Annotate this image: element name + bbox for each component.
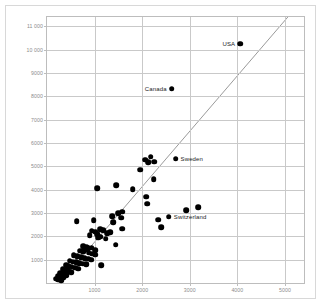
- data-point[interactable]: [142, 157, 148, 163]
- x-axis-tick-label: 5000: [279, 287, 291, 293]
- y-axis-tick-label: 3000: [31, 210, 43, 216]
- y-axis-tick-label: 11 000: [27, 23, 43, 29]
- gridline-vertical: [237, 17, 238, 283]
- y-axis-tick-label: 1000: [31, 257, 43, 263]
- data-point-label-switzerland: Switzerland: [174, 214, 207, 220]
- data-point[interactable]: [156, 217, 162, 223]
- data-point-label-canada: Canada: [145, 86, 167, 92]
- x-axis-tick-label: 2000: [136, 287, 148, 293]
- gridline-vertical: [285, 17, 286, 283]
- gridline-horizontal: [47, 190, 304, 191]
- gridline-vertical: [190, 17, 191, 283]
- data-point[interactable]: [169, 86, 175, 92]
- x-axis-tick-mark: [95, 283, 96, 286]
- data-point[interactable]: [110, 220, 116, 226]
- data-point[interactable]: [113, 242, 119, 248]
- gridline-horizontal: [47, 166, 304, 167]
- data-point[interactable]: [173, 156, 179, 162]
- gridline-horizontal: [47, 73, 304, 74]
- x-axis-tick-label: 3000: [184, 287, 196, 293]
- y-axis-tick-label: 9000: [31, 70, 43, 76]
- data-point[interactable]: [83, 262, 89, 268]
- y-axis-tick-label: 10 000: [27, 47, 43, 53]
- data-point[interactable]: [109, 213, 115, 219]
- gridline-horizontal: [47, 26, 304, 27]
- y-axis-tick-mark: [44, 96, 47, 97]
- gridline-horizontal: [47, 143, 304, 144]
- data-point[interactable]: [151, 159, 157, 165]
- y-axis-tick-mark: [44, 236, 47, 237]
- x-axis-tick-label: 4000: [231, 287, 243, 293]
- data-point[interactable]: [183, 207, 189, 213]
- y-axis-tick-label: 6000: [31, 140, 43, 146]
- gridline-horizontal: [47, 120, 304, 121]
- data-point[interactable]: [130, 186, 136, 192]
- gridline-horizontal: [47, 50, 304, 51]
- y-axis-tick-label: 5000: [31, 163, 43, 169]
- y-axis-tick-mark: [44, 166, 47, 167]
- gridline-horizontal: [47, 236, 304, 237]
- data-point[interactable]: [196, 204, 202, 210]
- x-axis-tick-mark: [285, 283, 286, 286]
- data-point[interactable]: [119, 226, 125, 232]
- data-point[interactable]: [166, 214, 172, 220]
- gridline-horizontal: [47, 96, 304, 97]
- y-axis-tick-mark: [44, 26, 47, 27]
- data-point[interactable]: [98, 262, 104, 268]
- y-axis-tick-mark: [44, 143, 47, 144]
- data-point[interactable]: [137, 167, 143, 173]
- scatter-plot-area: 11 00010 0009000800070006000500040003000…: [46, 16, 305, 284]
- data-point-label-sweden: Sweden: [181, 156, 204, 162]
- y-axis-tick-mark: [44, 190, 47, 191]
- y-axis-tick-mark: [44, 50, 47, 51]
- data-point[interactable]: [237, 41, 243, 47]
- data-point[interactable]: [74, 219, 80, 225]
- x-axis-tick-label: 1000: [89, 287, 101, 293]
- x-axis-tick-mark: [237, 283, 238, 286]
- y-axis-tick-mark: [44, 213, 47, 214]
- data-point[interactable]: [88, 257, 94, 263]
- data-point[interactable]: [68, 269, 74, 275]
- data-point[interactable]: [58, 278, 64, 284]
- y-axis-tick-label: 7000: [31, 117, 43, 123]
- y-axis-tick-mark: [44, 120, 47, 121]
- data-point[interactable]: [95, 235, 101, 241]
- y-axis-tick-mark: [44, 260, 47, 261]
- y-axis-tick-label: 4000: [31, 187, 43, 193]
- data-point[interactable]: [158, 225, 164, 231]
- data-point-label-usa: USA: [222, 41, 235, 47]
- x-axis-tick-mark: [142, 283, 143, 286]
- gridline-vertical: [95, 17, 96, 283]
- data-point[interactable]: [94, 185, 100, 191]
- y-axis-tick-label: 2000: [31, 233, 43, 239]
- y-axis-tick-mark: [44, 73, 47, 74]
- x-axis-tick-mark: [190, 283, 191, 286]
- data-point[interactable]: [113, 183, 119, 189]
- data-point[interactable]: [143, 194, 149, 200]
- gridline-vertical: [142, 17, 143, 283]
- chart-figure: 11 00010 0009000800070006000500040003000…: [0, 0, 322, 305]
- data-point[interactable]: [87, 232, 93, 238]
- data-point[interactable]: [118, 215, 124, 221]
- data-point[interactable]: [76, 266, 82, 272]
- data-point[interactable]: [103, 236, 109, 242]
- data-point[interactable]: [144, 201, 150, 207]
- data-point[interactable]: [151, 176, 157, 182]
- y-axis-tick-label: 8000: [31, 93, 43, 99]
- trend-line: [47, 17, 304, 283]
- data-point[interactable]: [91, 218, 97, 224]
